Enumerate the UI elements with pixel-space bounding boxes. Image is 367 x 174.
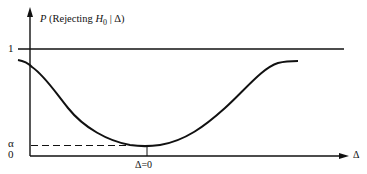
xtick-delta-zero: Δ=0 <box>135 160 152 170</box>
y-label-rest: | Δ) <box>107 13 125 24</box>
x-axis-arrow-icon <box>339 153 349 159</box>
x-axis-label: Δ <box>353 150 359 160</box>
power-curve <box>18 60 298 146</box>
y-label-text: (Rejecting <box>46 13 95 24</box>
ytick-zero: 0 <box>8 149 14 160</box>
y-label-h: H <box>95 13 103 24</box>
y-axis-label: P (Rejecting H0 | Δ) <box>40 14 125 27</box>
y-axis-arrow-icon <box>27 7 33 17</box>
ytick-one: 1 <box>8 43 14 54</box>
